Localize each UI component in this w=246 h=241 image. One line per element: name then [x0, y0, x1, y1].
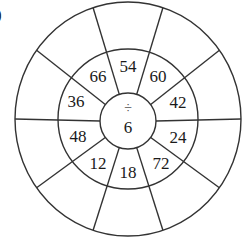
- inner-number: 72: [153, 154, 170, 173]
- inner-number: 66: [90, 67, 107, 86]
- inner-number: 18: [120, 163, 137, 182]
- problem-label: ): [0, 5, 2, 24]
- inner-number: 54: [120, 57, 138, 76]
- sector-divider-line: [15, 119, 100, 121]
- inner-number: 12: [90, 154, 107, 173]
- inner-number: 36: [68, 92, 85, 111]
- inner-number: 48: [70, 127, 87, 146]
- division-sign: ÷: [124, 101, 132, 116]
- sector-divider-line: [156, 119, 241, 121]
- inner-number: 24: [170, 128, 188, 147]
- inner-number: 60: [150, 67, 167, 86]
- center-divisor: 6: [124, 118, 133, 137]
- inner-number: 42: [170, 93, 187, 112]
- division-wheel-diagram: ) ÷ 6 54 60 42 24 72 18 12 48 36 66: [0, 0, 246, 241]
